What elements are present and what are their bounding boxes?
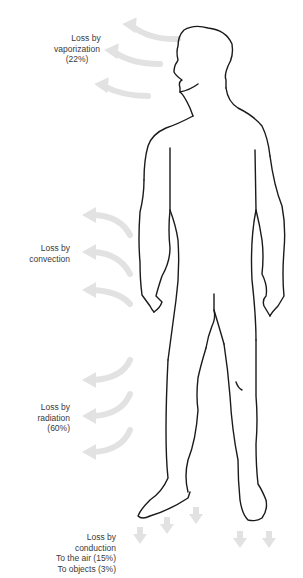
- conduction-label-line1: Loss by: [56, 532, 116, 543]
- vaporization-label-line1: Loss by: [44, 33, 110, 44]
- radiation-label-line1: Loss by: [37, 402, 70, 413]
- chin-line: [180, 84, 198, 92]
- vaporization-arrow-3: [104, 86, 148, 96]
- convection-arrows: [82, 207, 130, 304]
- conduction-label-line4: To objects (3%): [56, 564, 116, 575]
- convection-arrow-3: [94, 290, 130, 304]
- vaporization-label-line2: vaporization: [44, 44, 110, 55]
- convection-arrow-2: [94, 252, 130, 274]
- left-leg-outer: [138, 360, 190, 518]
- crotch-line: [206, 294, 215, 348]
- human-body-outline: [138, 26, 285, 520]
- right-arm-outer: [270, 156, 285, 316]
- right-leg-inner: [224, 340, 267, 521]
- heat-loss-diagram: Loss by vaporization (22%) Loss by conve…: [0, 0, 303, 578]
- vaporization-label: Loss by vaporization (22%): [44, 33, 110, 65]
- radiation-arrow-3: [94, 430, 130, 452]
- radiation-label: Loss by radiation (60%): [37, 402, 70, 434]
- conduction-arrow-5: [262, 531, 276, 548]
- conduction-arrows: [133, 507, 276, 548]
- left-arm-outer: [139, 180, 154, 312]
- right-shoulder: [226, 88, 270, 156]
- left-arm-inner: [154, 210, 170, 312]
- conduction-arrow-2: [160, 517, 174, 534]
- knee-mark: [236, 382, 242, 390]
- diagram-artwork: [0, 0, 303, 578]
- convection-label: Loss by convection: [29, 243, 70, 264]
- conduction-arrow-3: [189, 507, 203, 524]
- right-torso-line: [252, 150, 257, 340]
- radiation-label-line3: (60%): [37, 423, 70, 434]
- radiation-label-line2: radiation: [37, 413, 70, 424]
- conduction-label-line2: conduction: [56, 543, 116, 554]
- radiation-arrow-1: [94, 360, 130, 380]
- conduction-label-line3: To the air (15%): [56, 553, 116, 564]
- radiation-arrow-2: [94, 394, 130, 416]
- conduction-arrow-4: [233, 531, 247, 548]
- right-arm-inner: [256, 210, 270, 316]
- radiation-arrows: [82, 360, 130, 460]
- left-leg-inner: [186, 348, 206, 492]
- convection-label-line2: convection: [29, 254, 70, 265]
- vaporization-label-line3: (22%): [44, 54, 110, 65]
- convection-label-line1: Loss by: [29, 243, 70, 254]
- left-shoulder: [144, 116, 193, 180]
- head-outline: [174, 26, 233, 116]
- conduction-label: Loss by conduction To the air (15%) To o…: [56, 532, 116, 574]
- convection-arrow-1: [94, 215, 130, 235]
- vaporization-arrow-1: [132, 26, 178, 39]
- conduction-arrow-1: [133, 527, 147, 544]
- vaporization-arrow-2: [114, 52, 160, 64]
- inner-right-leg-top: [214, 310, 224, 344]
